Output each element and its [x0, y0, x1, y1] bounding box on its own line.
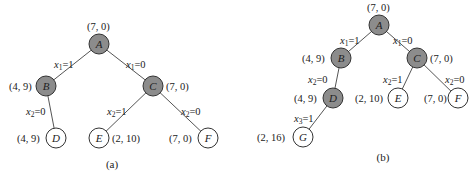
edge-label-b-A-B: x1=1 — [339, 35, 360, 48]
tree-b: x1=1 x1=0 x2=0 x2=1 x2=0 x3=1 A (7, 0) B… — [257, 2, 468, 164]
node-label-a-E: E — [95, 132, 103, 144]
edge-label-b-C-E: x2=1 — [382, 74, 403, 87]
edge-label-b-A-C: x1=0 — [392, 35, 413, 48]
node-value-b-D: (4, 9) — [294, 93, 317, 105]
node-label-b-E: E — [394, 92, 402, 104]
edge-label-a-C-F: x2=0 — [180, 106, 201, 119]
node-value-a-F: (7, 0) — [169, 133, 192, 145]
node-value-b-C: (7, 0) — [430, 53, 453, 65]
caption-b: (b) — [377, 151, 390, 164]
node-label-b-C: C — [413, 52, 421, 64]
edge-label-a-A-B: x1=1 — [53, 59, 74, 72]
branch-and-bound-trees: x1=1 x1=0 x2=0 x2=1 x2=0 A (7, 0) B (4, … — [0, 0, 473, 176]
edge-label-a-C-E: x2=1 — [106, 106, 127, 119]
node-value-b-B: (4, 9) — [302, 53, 325, 65]
node-label-a-B: B — [43, 80, 50, 92]
node-value-a-D: (4, 9) — [17, 133, 40, 145]
node-label-b-A: A — [375, 19, 383, 31]
node-label-a-C: C — [149, 80, 157, 92]
node-value-a-E: (2, 10) — [112, 133, 140, 145]
node-label-b-D: D — [328, 92, 337, 104]
node-value-b-F: (7, 0) — [424, 93, 447, 105]
node-value-b-A: (7, 0) — [367, 2, 390, 14]
tree-a: x1=1 x1=0 x2=0 x2=1 x2=0 A (7, 0) B (4, … — [9, 21, 218, 171]
node-value-b-G: (2, 16) — [257, 132, 285, 144]
node-value-a-C: (7, 0) — [166, 81, 189, 93]
node-value-b-E: (2, 10) — [355, 93, 383, 105]
node-label-b-G: G — [299, 131, 307, 143]
caption-a: (a) — [106, 158, 119, 171]
edge-label-a-A-C: x1=0 — [125, 59, 146, 72]
node-label-a-F: F — [204, 132, 212, 144]
node-label-b-F: F — [454, 92, 462, 104]
node-label-b-B: B — [338, 52, 345, 64]
node-label-a-D: D — [51, 132, 60, 144]
edge-label-a-B-D: x2=0 — [25, 106, 46, 119]
node-value-a-B: (4, 9) — [9, 81, 32, 93]
edge-label-b-C-F: x2=0 — [444, 74, 465, 87]
edge-label-b-D-G: x3=1 — [293, 113, 314, 126]
edge-label-b-B-D: x2=0 — [307, 74, 328, 87]
node-label-a-A: A — [95, 38, 103, 50]
node-value-a-A: (7, 0) — [87, 21, 110, 33]
